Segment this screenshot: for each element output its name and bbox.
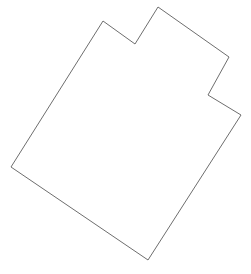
irregular-polygon-outline (11, 7, 241, 260)
polygon-figure (0, 0, 251, 274)
drawing-canvas (0, 0, 251, 274)
